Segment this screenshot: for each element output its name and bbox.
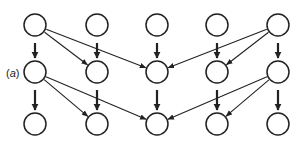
node-r1c4 [267, 61, 289, 83]
node-r2c4 [267, 113, 289, 135]
node-r2c0 [24, 113, 46, 135]
panel-label: (a) [6, 67, 19, 79]
node-r1c1 [86, 61, 108, 83]
node-r0c0 [24, 14, 46, 36]
node-r1c2 [146, 61, 168, 83]
node-r1c3 [206, 61, 228, 83]
node-r2c1 [86, 113, 108, 135]
node-r0c1 [86, 14, 108, 36]
nodes-layer [24, 14, 289, 135]
directed-graph-diagram [0, 0, 301, 156]
node-r0c2 [146, 14, 168, 36]
node-r0c4 [267, 14, 289, 36]
node-r2c2 [146, 113, 168, 135]
node-r0c3 [206, 14, 228, 36]
panel-label-close: ) [16, 67, 20, 79]
node-r1c0 [24, 61, 46, 83]
node-r2c3 [206, 113, 228, 135]
